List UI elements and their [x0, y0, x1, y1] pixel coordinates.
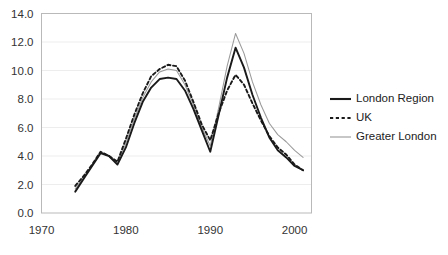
- chart-canvas: 0.02.04.06.08.010.012.014.0 197019801990…: [0, 0, 448, 255]
- x-axis-tick-label: 1970: [29, 224, 55, 236]
- series-group: [75, 33, 303, 191]
- legend-label-uk: UK: [356, 111, 372, 123]
- series-line-uk: [75, 65, 303, 186]
- y-axis-tick-label: 0.0: [18, 207, 34, 219]
- chart-legend: London RegionUKGreater London: [330, 92, 437, 142]
- y-axis-tick-label: 2.0: [18, 179, 34, 191]
- series-line-greater-london: [75, 33, 303, 188]
- y-axis-tick-label: 14.0: [11, 8, 33, 20]
- y-axis-tick-labels: 0.02.04.06.08.010.012.014.0: [11, 8, 33, 220]
- y-axis-tick-label: 10.0: [11, 65, 33, 77]
- legend-label-london-region: London Region: [356, 92, 434, 104]
- y-axis-tick-label: 6.0: [18, 122, 34, 134]
- legend-label-greater-london: Greater London: [356, 130, 437, 142]
- y-axis-tick-label: 8.0: [18, 93, 34, 105]
- x-axis-tick-label: 1980: [113, 224, 139, 236]
- x-axis-tick-labels: 1970198019902000: [29, 224, 308, 236]
- y-axis-tick-label: 4.0: [18, 150, 34, 162]
- line-chart: 0.02.04.06.08.010.012.014.0 197019801990…: [0, 0, 448, 255]
- series-line-london-region: [75, 48, 303, 192]
- x-axis-tick-label: 2000: [282, 224, 308, 236]
- y-axis-tick-label: 12.0: [11, 36, 33, 48]
- gridlines-group: [42, 14, 312, 185]
- x-axis-tick-label: 1990: [197, 224, 223, 236]
